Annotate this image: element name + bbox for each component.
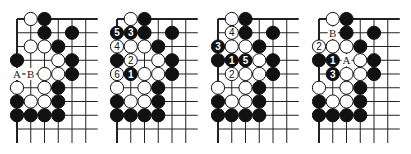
black-stone [266, 54, 279, 67]
point-label-B: B [329, 27, 336, 39]
white-stone [340, 40, 353, 53]
black-stone [10, 95, 23, 108]
white-stone [138, 40, 151, 53]
black-stone [110, 54, 123, 67]
black-stone [138, 12, 151, 25]
black-stone [239, 26, 252, 39]
black-stone [52, 40, 65, 53]
black-stone [225, 109, 238, 122]
white-stone [253, 67, 266, 80]
black-stone [326, 109, 339, 122]
black-stone [124, 109, 137, 122]
black-stone [52, 109, 65, 122]
black-stone [38, 109, 51, 122]
board-svg: BA213 [302, 0, 402, 154]
black-stone [367, 26, 380, 39]
white-stone [38, 40, 51, 53]
white-stone [211, 81, 224, 94]
black-stone [24, 109, 37, 122]
white-stone [354, 54, 367, 67]
black-stone [165, 26, 178, 39]
white-stone [253, 54, 266, 67]
black-stone [52, 81, 65, 94]
white-stone [326, 40, 339, 53]
black-stone [312, 54, 325, 67]
black-stone [110, 109, 123, 122]
black-stone [152, 81, 165, 94]
board-svg: 43152 [201, 0, 301, 154]
point-label-A: A [343, 54, 351, 66]
black-stone [354, 109, 367, 122]
black-stone [239, 109, 252, 122]
black-stone [152, 40, 165, 53]
black-stone [165, 67, 178, 80]
go-board-diagram-2: 534261 [100, 0, 200, 154]
go-board-diagram-4: BA213 [302, 0, 402, 154]
black-stone [253, 95, 266, 108]
black-stone [354, 95, 367, 108]
move-number-5: 5 [243, 55, 249, 66]
white-stone [10, 81, 23, 94]
move-number-1: 1 [128, 69, 134, 80]
black-stone [65, 26, 78, 39]
white-stone [312, 81, 325, 94]
move-number-2: 2 [128, 55, 134, 66]
black-stone [38, 12, 51, 25]
black-stone [253, 81, 266, 94]
white-stone [354, 67, 367, 80]
white-stone [340, 81, 353, 94]
black-stone [65, 67, 78, 80]
move-number-1: 1 [330, 55, 336, 66]
black-stone [165, 54, 178, 67]
move-number-2: 2 [316, 41, 322, 52]
white-stone [138, 67, 151, 80]
white-stone [24, 12, 37, 25]
black-stone [266, 67, 279, 80]
move-number-5: 5 [114, 27, 120, 38]
black-stone [10, 109, 23, 122]
black-stone [367, 54, 380, 67]
black-stone [138, 109, 151, 122]
white-stone [326, 12, 339, 25]
white-stone [340, 95, 353, 108]
white-stone [110, 81, 123, 94]
black-stone [110, 95, 123, 108]
move-number-2: 2 [229, 69, 235, 80]
move-number-4: 4 [114, 41, 120, 52]
white-stone [138, 81, 151, 94]
black-stone [340, 12, 353, 25]
black-stone [211, 109, 224, 122]
white-stone [52, 67, 65, 80]
go-board-diagram-3: 43152 [201, 0, 301, 154]
black-stone [253, 109, 266, 122]
point-label-A: A [13, 68, 21, 80]
board-svg: 534261 [100, 0, 200, 154]
white-stone [225, 40, 238, 53]
white-stone [326, 95, 339, 108]
white-stone [239, 81, 252, 94]
white-stone [152, 67, 165, 80]
white-stone [225, 12, 238, 25]
move-number-6: 6 [114, 69, 120, 80]
black-stone [38, 26, 51, 39]
move-number-1: 1 [229, 55, 235, 66]
black-stone [211, 54, 224, 67]
black-stone [152, 95, 165, 108]
move-number-3: 3 [215, 41, 221, 52]
white-stone [239, 40, 252, 53]
white-stone [152, 54, 165, 67]
white-stone [38, 81, 51, 94]
white-stone [225, 95, 238, 108]
move-number-3: 3 [128, 27, 134, 38]
white-stone [52, 54, 65, 67]
black-stone [253, 40, 266, 53]
black-stone [52, 95, 65, 108]
white-stone [38, 67, 51, 80]
black-stone [65, 54, 78, 67]
black-stone [354, 81, 367, 94]
black-stone [354, 40, 367, 53]
black-stone [340, 109, 353, 122]
white-stone [340, 67, 353, 80]
black-stone [367, 67, 380, 80]
white-stone [124, 95, 137, 108]
